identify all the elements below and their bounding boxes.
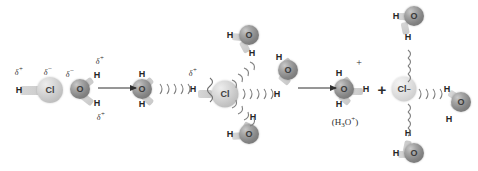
hydrogen-bond-chloride-to-water6 [408, 50, 411, 82]
reaction-diagram: H Cl δ+ δ− O H H δ− δ+ δ+ O H H H δ+ Cl … [0, 0, 478, 171]
breaking-bond-squiggle [208, 78, 213, 102]
bonds-and-arrows-overlay [0, 0, 478, 171]
hydrogen-bond-chloride-to-water7 [408, 104, 411, 136]
hydrogen-bond-water2-to-h [160, 84, 190, 94]
hydrogen-bond-cl-to-water4 [232, 100, 255, 126]
hydrogen-bond-cl-to-water3 [232, 62, 255, 88]
hydrogen-bond-chloride-to-water8 [419, 89, 442, 99]
hydrogen-bond-cl-to-water5 [243, 89, 273, 99]
